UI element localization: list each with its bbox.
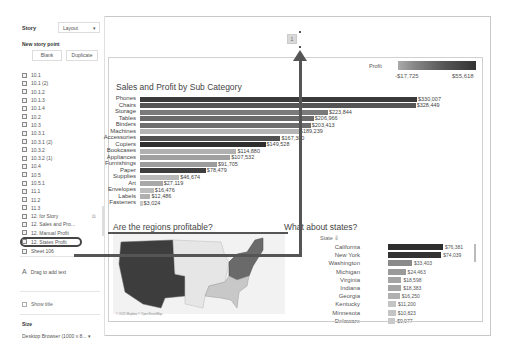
sheet-list-item[interactable]: 12. Sales and Pro...: [22, 220, 102, 228]
sheet-icon: [22, 172, 27, 177]
nav-handle-bottom: [299, 46, 301, 48]
state-row[interactable]: Indiana$18,383: [300, 284, 490, 292]
bar-value-label: $3,024: [144, 200, 161, 206]
bar-value-label: $16,476: [155, 187, 175, 193]
state-value-label: $18,383: [403, 284, 421, 292]
bar[interactable]: [140, 129, 299, 134]
state-bar[interactable]: [388, 285, 401, 291]
bar[interactable]: [140, 142, 266, 147]
bar[interactable]: [140, 155, 230, 160]
story-point-navigator[interactable]: 1: [287, 34, 297, 44]
blank-button[interactable]: Blank: [32, 50, 62, 61]
chevron-down-icon: ▾: [93, 25, 96, 31]
state-bar[interactable]: [388, 293, 400, 299]
bar-category-label: Fasteners: [76, 199, 136, 206]
state-row[interactable]: New York$74,039: [300, 251, 490, 259]
us-map-icon: [113, 234, 285, 314]
state-bar[interactable]: [388, 244, 443, 250]
bar[interactable]: [140, 181, 163, 186]
bar[interactable]: [140, 103, 416, 108]
state-row[interactable]: Michigan$24,463: [300, 268, 490, 276]
bar-value-label: $149,528: [267, 141, 290, 147]
state-value-label: $18,598: [403, 276, 421, 284]
states-column-header[interactable]: State ⇩: [320, 235, 339, 241]
regions-map[interactable]: [113, 234, 285, 314]
state-row[interactable]: California$76,381: [300, 243, 490, 251]
sheet-icon: [22, 114, 27, 119]
sheet-list-item-label: Sheet 106: [31, 248, 54, 254]
sheet-list-item-label: 10.3: [31, 122, 41, 128]
bar-value-label: $206,966: [315, 115, 338, 121]
sheet-list-item-label: 10.2: [31, 114, 41, 120]
sheet-list-item[interactable]: 10.1: [22, 71, 102, 79]
sheet-icon: [22, 214, 27, 219]
sheet-icon: [22, 73, 27, 78]
size-dropdown[interactable]: Desktop Browser (1000 x 8... ▾: [22, 333, 91, 339]
sheet-list-item-label: 10.1.4: [31, 105, 45, 111]
bar[interactable]: [140, 97, 417, 102]
state-bar[interactable]: [388, 310, 396, 316]
state-value-label: $10,823: [398, 309, 416, 317]
bar-value-label: $12,486: [151, 193, 171, 199]
profit-color-legend: [398, 61, 476, 70]
sheet-list-item-label: 12. States Profit: [31, 239, 67, 245]
sheet-list-scrollbar[interactable]: [102, 206, 104, 236]
bar[interactable]: [140, 162, 217, 167]
map-attribution: © 2021 Mapbox © OpenStreetMap: [116, 312, 162, 316]
bar-value-label: $91,705: [218, 161, 238, 167]
size-label: Size: [22, 321, 32, 327]
drag-text-object[interactable]: A Drag to add text: [22, 268, 66, 275]
regions-title: Are the regions profitable?: [113, 222, 213, 232]
state-bar[interactable]: [388, 269, 406, 275]
annotation-arrow-head-icon: [293, 50, 307, 61]
state-row[interactable]: Virginia$18,598: [300, 276, 490, 284]
bar-value-label: $223,844: [329, 109, 352, 115]
bar[interactable]: [140, 194, 150, 199]
sheet-list-item[interactable]: 12. Manual Profit: [22, 229, 102, 237]
sheet-list-item[interactable]: 10.1 (2): [22, 79, 102, 87]
sheet-list-item[interactable]: 12. States Profit: [20, 237, 82, 247]
state-bar[interactable]: [388, 260, 412, 266]
sheet-icon: [22, 222, 27, 227]
state-name: Virginia: [300, 276, 360, 284]
bar[interactable]: [140, 201, 143, 206]
tab-story[interactable]: Story: [22, 25, 36, 31]
bar[interactable]: [140, 136, 280, 141]
sheet-list-item[interactable]: 12. for Story⧉: [22, 212, 102, 220]
states-title: What about states?: [284, 222, 357, 232]
sheet-list-item-label: 12. Manual Profit: [31, 230, 69, 236]
bar[interactable]: [140, 123, 311, 128]
sheet-icon: [22, 122, 27, 127]
sheet-list-item-label: 10.1.2: [31, 89, 45, 95]
sheet-icon: [22, 197, 27, 202]
state-bar[interactable]: [388, 301, 396, 307]
state-row[interactable]: Kentucky$11,200: [300, 300, 490, 308]
bar[interactable]: [140, 116, 314, 121]
open-sheet-icon[interactable]: ⧉: [92, 213, 96, 220]
state-value-label: $33,403: [414, 259, 432, 267]
bar[interactable]: [140, 168, 206, 173]
sheet-list-item-label: 10.1: [31, 72, 41, 78]
sheet-icon: [22, 89, 27, 94]
state-bar[interactable]: [388, 277, 401, 283]
sheet-list-item-label: 11.3: [31, 205, 40, 211]
sheet-icon: [22, 189, 27, 194]
state-row[interactable]: Minnesota$10,823: [300, 309, 490, 317]
drag-text-label: Drag to add text: [31, 269, 67, 275]
tab-layout-label: Layout: [63, 25, 78, 31]
state-value-label: $74,039: [443, 251, 461, 259]
duplicate-button[interactable]: Duplicate: [66, 50, 98, 61]
state-row[interactable]: Washington$33,403: [300, 259, 490, 267]
bar[interactable]: [140, 149, 236, 154]
state-row[interactable]: Georgia$16,250: [300, 292, 490, 300]
state-name: Georgia: [300, 292, 360, 300]
bar-row[interactable]: Fasteners$3,024: [108, 200, 488, 207]
show-title-checkbox[interactable]: Show title: [22, 301, 53, 307]
bar[interactable]: [140, 175, 179, 180]
tab-layout[interactable]: Layout ▾: [58, 22, 100, 33]
state-bar[interactable]: [388, 252, 441, 258]
states-scrollbar[interactable]: [474, 244, 476, 262]
sheet-list-item-label: 10.3.1: [31, 130, 45, 136]
bar[interactable]: [140, 188, 154, 193]
state-name: New York: [300, 251, 360, 259]
